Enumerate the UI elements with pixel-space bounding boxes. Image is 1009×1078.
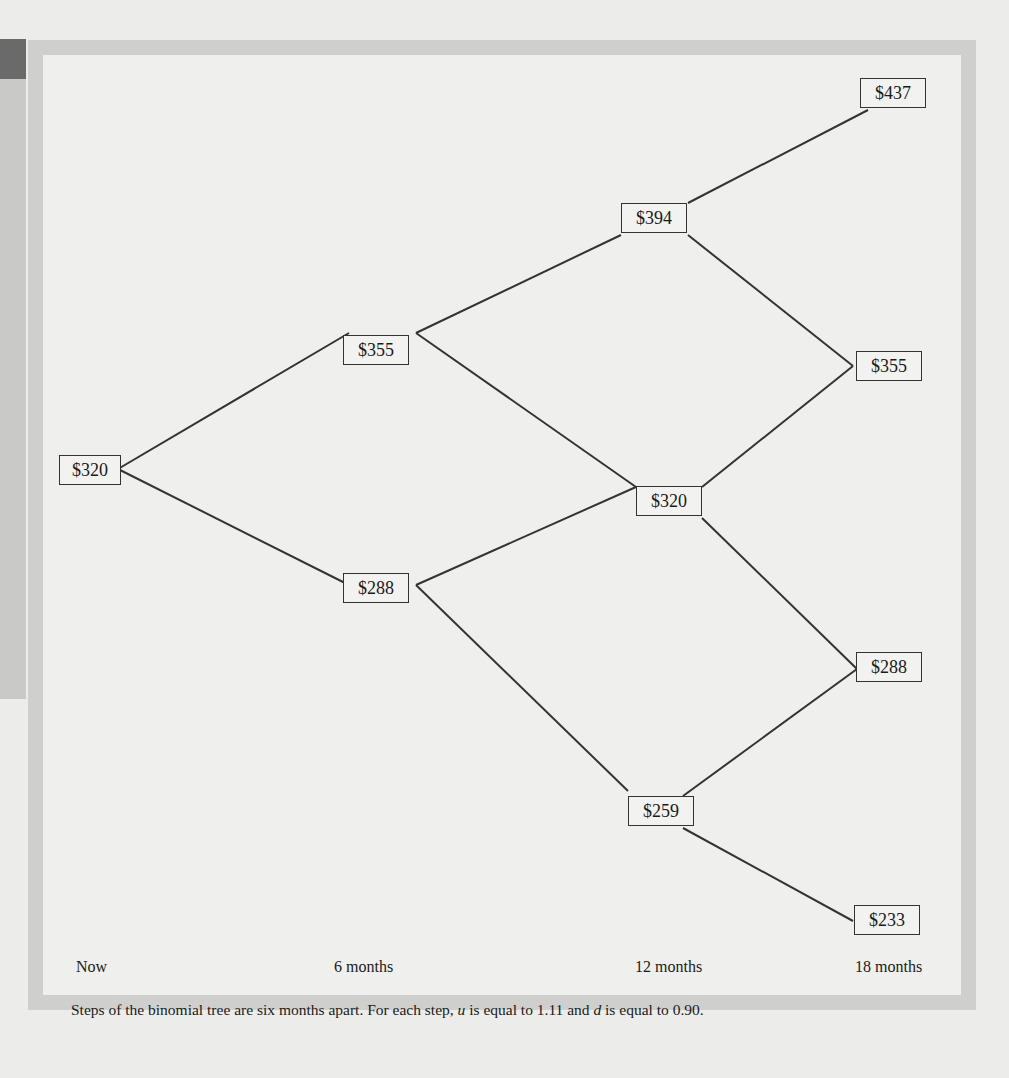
tree-node-6m-down: $288 (343, 573, 409, 603)
tree-node-12m-updown: $320 (636, 486, 702, 516)
tree-node-12m-downdown: $259 (628, 796, 694, 826)
figure-caption: Steps of the binomial tree are six month… (71, 1001, 704, 1019)
time-label-6-months: 6 months (334, 958, 393, 976)
tree-node-now: $320 (59, 455, 121, 485)
caption-text: Steps of the binomial tree are six month… (71, 1001, 458, 1018)
caption-text: is equal to 0.90. (601, 1001, 703, 1018)
tree-node-18m-udd: $288 (856, 652, 922, 682)
caption-text: is equal to 1.11 and (465, 1001, 593, 1018)
tree-node-6m-up: $355 (343, 335, 409, 365)
tree-node-18m-uuu: $437 (860, 78, 926, 108)
time-label-18-months: 18 months (855, 958, 922, 976)
tree-node-18m-ddd: $233 (854, 905, 920, 935)
tree-node-12m-upup: $394 (621, 203, 687, 233)
time-label-now: Now (76, 958, 107, 976)
tree-node-18m-uud: $355 (856, 351, 922, 381)
time-label-12-months: 12 months (635, 958, 702, 976)
